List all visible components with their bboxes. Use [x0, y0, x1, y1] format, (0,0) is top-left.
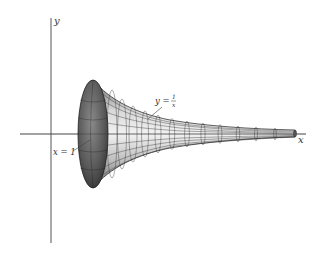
curve-label: y =: [154, 96, 170, 106]
curve-annotation: y = 1 x: [148, 93, 176, 119]
curve-label-numerator: 1: [172, 93, 176, 100]
x-axis-label: x: [298, 134, 304, 145]
y-axis-label: y: [53, 15, 60, 26]
horn-tip: [294, 130, 297, 137]
boundary-label: x = 1: [53, 147, 76, 157]
curve-label-denominator: x: [172, 101, 176, 108]
gabriels-horn-figure: y x: [0, 0, 319, 253]
